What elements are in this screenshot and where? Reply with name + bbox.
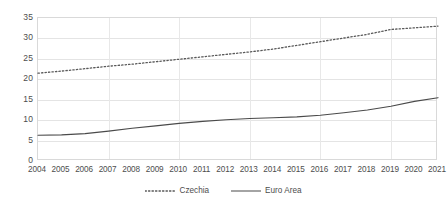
x-axis-tick-label: 2021 (428, 165, 446, 175)
y-axis-tick-label: 5 (0, 135, 33, 144)
x-axis-tick-label: 2016 (310, 165, 328, 175)
y-axis-tick-label: 35 (0, 13, 33, 22)
x-axis-tick-label: 2012 (216, 165, 234, 175)
y-axis-tick-label: 25 (0, 53, 33, 62)
x-axis-tick-label: 2007 (99, 165, 117, 175)
series-line-euro-area (38, 98, 438, 136)
y-axis-tick-label: 20 (0, 74, 33, 83)
series-line-czechia (38, 26, 438, 73)
y-axis-tick-label: 15 (0, 94, 33, 103)
solid-line-swatch (231, 187, 261, 195)
x-axis: 2004200520062007200820092010201120122013… (37, 165, 437, 179)
x-axis-tick-label: 2006 (75, 165, 93, 175)
legend-label: Euro Area (265, 186, 301, 196)
x-axis-tick-label: 2017 (334, 165, 352, 175)
x-axis-tick-label: 2004 (28, 165, 46, 175)
x-axis-tick-label: 2009 (146, 165, 164, 175)
x-axis-tick-label: 2019 (381, 165, 399, 175)
x-axis-tick-label: 2020 (405, 165, 423, 175)
x-axis-tick-label: 2010 (169, 165, 187, 175)
line-chart: 05101520253035 2004200520062007200820092… (0, 0, 447, 204)
y-axis-tick-label: 10 (0, 115, 33, 124)
legend-label: Czechia (179, 186, 209, 196)
x-axis-tick-label: 2014 (263, 165, 281, 175)
series-layer (38, 18, 438, 161)
x-axis-tick-label: 2018 (357, 165, 375, 175)
legend-item-euro-area[interactable]: Euro Area (231, 185, 301, 197)
x-axis-tick-label: 2013 (240, 165, 258, 175)
y-axis-tick-label: 0 (0, 156, 33, 165)
x-axis-tick-label: 2011 (193, 165, 210, 175)
legend-item-czechia[interactable]: Czechia (145, 185, 209, 197)
y-axis-tick-label: 30 (0, 33, 33, 42)
x-axis-tick-label: 2015 (287, 165, 305, 175)
dotted-line-swatch (145, 187, 175, 195)
x-axis-tick-label: 2005 (52, 165, 70, 175)
chart-legend: CzechiaEuro Area (0, 184, 447, 198)
x-axis-tick-label: 2008 (122, 165, 140, 175)
plot-area (37, 17, 437, 160)
